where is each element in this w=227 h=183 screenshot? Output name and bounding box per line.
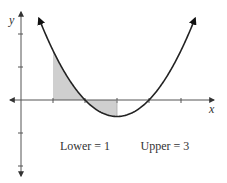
upper-bound-label: Upper = 3	[141, 139, 190, 153]
x-axis-label: x	[208, 102, 215, 116]
y-axis-label: y	[8, 13, 15, 27]
chart: x y Lower = 1 Upper = 3	[0, 0, 227, 183]
shaded-area	[53, 51, 117, 117]
lower-bound-label: Lower = 1	[60, 139, 110, 153]
